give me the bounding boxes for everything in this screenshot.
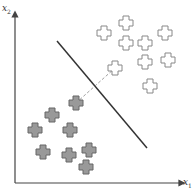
filled-cross-icon bbox=[63, 123, 77, 137]
filled-cross-icon bbox=[82, 143, 96, 157]
open-cross-icon bbox=[119, 36, 133, 50]
open-cross-icon bbox=[158, 26, 172, 40]
filled-cross-icon bbox=[36, 145, 50, 159]
y-axis-label: x2 bbox=[2, 3, 11, 15]
svm-diagram: x2 x1 bbox=[0, 0, 193, 190]
x-axis-label: x1 bbox=[183, 177, 192, 189]
open-cross-icon bbox=[138, 36, 152, 50]
open-cross-icon bbox=[119, 16, 133, 30]
filled-cross-icon bbox=[28, 123, 42, 137]
open-cross-icon bbox=[97, 26, 111, 40]
filled-cross-icon bbox=[79, 160, 93, 174]
open-cross-icon bbox=[143, 79, 157, 93]
open-cross-icon bbox=[138, 55, 152, 69]
open-cross-icon bbox=[161, 53, 175, 67]
filled-cross-icon bbox=[45, 108, 59, 122]
margin-dashed-line bbox=[76, 68, 115, 103]
plot-area bbox=[0, 0, 193, 190]
filled-cross-icon bbox=[62, 148, 76, 162]
